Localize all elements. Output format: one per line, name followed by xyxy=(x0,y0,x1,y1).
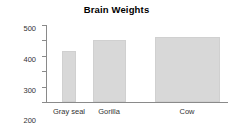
bar xyxy=(62,51,76,102)
y-tick-mark: 500 xyxy=(42,25,46,26)
y-tick-mark: 0 xyxy=(42,102,46,103)
y-axis-line xyxy=(46,25,47,103)
y-tick-label: 400 xyxy=(23,59,36,60)
x-tick-label: Cow xyxy=(142,107,232,116)
y-tick-label: 500 xyxy=(23,28,36,29)
brain-weights-bar-chart: Brain Weights Brain Weight (g) 010020030… xyxy=(0,0,233,128)
y-tick-mark: 100 xyxy=(42,87,46,88)
y-tick-label: 200 xyxy=(23,120,36,121)
bar xyxy=(93,40,126,102)
plot-area: 0100200300400500 xyxy=(46,22,228,103)
y-tick-label: 300 xyxy=(23,90,36,91)
bar xyxy=(155,37,220,102)
y-tick-mark: 200 xyxy=(42,71,46,72)
chart-title: Brain Weights xyxy=(0,4,233,15)
y-tick-mark: 400 xyxy=(42,40,46,41)
x-tick-label: Gorilla xyxy=(64,107,154,116)
y-tick-mark: 300 xyxy=(42,56,46,57)
x-axis-line xyxy=(46,102,228,103)
